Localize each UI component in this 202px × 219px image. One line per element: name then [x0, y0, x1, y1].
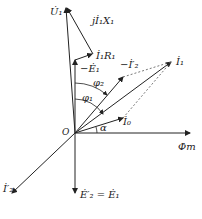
label-phi1: φ₁ — [82, 93, 93, 103]
label-alpha: α — [100, 123, 107, 133]
label-phi2: φ₂ — [93, 78, 104, 88]
label-minus-i2p: −İ′₂ — [120, 60, 139, 70]
label-i2p: İ′₂ — [3, 184, 13, 194]
label-ji1x1: jİ₁X₁ — [92, 16, 114, 26]
label-e2p-eq-e1: Ė′₂ = Ė₁ — [80, 190, 120, 200]
alpha-arc — [96, 127, 97, 133]
i2p-vector — [12, 133, 75, 193]
i1r1-vector — [75, 54, 92, 60]
label-i0: İ₀ — [123, 117, 131, 127]
ji1x1-vector — [67, 8, 93, 54]
phasor-diagram — [0, 0, 202, 219]
dashed-line — [123, 62, 171, 118]
label-minus-e1: −Ė₁ — [80, 64, 100, 74]
label-phim: Φ̇m — [178, 142, 196, 152]
i0-vector — [75, 118, 123, 133]
label-i1: İ₁ — [176, 57, 184, 67]
label-u1: U̇₁ — [50, 7, 62, 17]
label-origin: O — [62, 128, 69, 137]
u1-vector — [66, 8, 75, 133]
label-i1r1: İ₁R₁ — [96, 51, 116, 61]
